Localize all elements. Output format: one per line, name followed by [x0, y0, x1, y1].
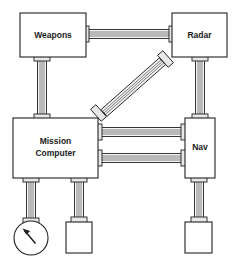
- node-terminal-center[interactable]: [66, 222, 92, 253]
- cable-weapons-mission-computer: [38, 57, 47, 118]
- cable-mission-computer-terminal-center: [75, 178, 84, 222]
- node-mission-computer[interactable]: Mission Computer: [13, 118, 98, 178]
- node-gauge[interactable]: [14, 221, 48, 255]
- node-mission-computer-label-line2: Computer: [35, 148, 76, 158]
- cable-mission-computer-radar: [101, 58, 165, 116]
- node-nav-label: Nav: [192, 142, 208, 152]
- cable-mission-computer-nav-lower: [98, 154, 185, 163]
- node-weapons[interactable]: Weapons: [20, 13, 86, 57]
- node-mission-computer-label-line1: Mission: [40, 136, 72, 146]
- diagram-canvas: Weapons Radar Mission Computer Nav: [0, 0, 237, 263]
- cable-weapons-radar: [86, 30, 172, 39]
- block-diagram-svg: Weapons Radar Mission Computer Nav: [0, 0, 237, 263]
- cable-mission-computer-gauge: [27, 178, 36, 222]
- cable-nav-terminal-right: [195, 178, 204, 222]
- node-terminal-right[interactable]: [185, 222, 212, 253]
- node-radar-label: Radar: [187, 30, 212, 40]
- node-nav[interactable]: Nav: [185, 118, 215, 178]
- node-weapons-label: Weapons: [34, 30, 72, 40]
- node-radar[interactable]: Radar: [172, 13, 227, 57]
- cable-radar-nav: [196, 57, 205, 118]
- cable-mission-computer-nav-upper: [98, 128, 185, 137]
